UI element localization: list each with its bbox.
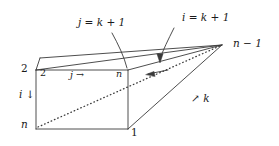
label-k-direction: ↗ k — [191, 93, 210, 104]
rect-top-left-to-apex-edge — [36, 45, 222, 70]
label-j-equals-k-plus-1: j = k + 1 — [78, 17, 125, 28]
label-inner-column-2: 2 — [40, 68, 46, 78]
label-inner-column-n: n — [116, 69, 122, 79]
back-top-edge — [40, 45, 222, 58]
label-row-index-2: 2 — [21, 63, 28, 74]
label-i-equals-k-plus-1: i = k + 1 — [182, 12, 229, 23]
math-figure: j = k + 1 i = k + 1 n − 1 2 i ↓ n 2 j → … — [0, 0, 279, 146]
inner-left-arrowhead — [146, 71, 155, 76]
label-n-minus-1: n − 1 — [233, 38, 262, 49]
label-row-index-n: n — [21, 119, 28, 130]
label-i-down-arrow: i ↓ — [19, 89, 35, 100]
j-pointer-line — [112, 33, 127, 68]
label-j-right-arrow: j → — [70, 70, 84, 80]
label-depth-1: 1 — [131, 127, 138, 138]
